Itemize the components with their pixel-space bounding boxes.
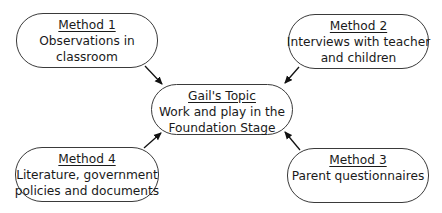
- method-3-node: Method 3 Parent questionnaires: [287, 148, 429, 203]
- method-4-line-2: policies and documents: [15, 183, 159, 199]
- method-1-line-2: classroom: [56, 49, 118, 65]
- method-2-node: Method 2 Interviews with teacher and chi…: [288, 14, 429, 69]
- arrow-method4-to-topic: [144, 133, 161, 148]
- method-4-node: Method 4 Literature, government policies…: [15, 147, 159, 202]
- topic-title: Gail's Topic: [188, 88, 256, 104]
- method-1-line-1: Observations in: [39, 33, 135, 49]
- method-4-line-1: Literature, government: [16, 167, 158, 183]
- arrow-method1-to-topic: [145, 66, 162, 84]
- method-4-title: Method 4: [58, 151, 115, 167]
- method-3-line-1: Parent questionnaires: [292, 168, 425, 184]
- arrow-method2-to-topic: [285, 67, 299, 83]
- topic-line-1: Work and play in the: [159, 104, 285, 120]
- topic-node: Gail's Topic Work and play in the Founda…: [151, 84, 293, 135]
- method-3-title: Method 3: [329, 152, 386, 168]
- method-1-title: Method 1: [58, 17, 115, 33]
- method-2-title: Method 2: [330, 18, 387, 34]
- topic-line-2: Foundation Stage: [168, 120, 275, 136]
- method-2-line-1: Interviews with teacher: [287, 34, 430, 50]
- arrow-method3-to-topic: [285, 132, 300, 150]
- method-2-line-2: and children: [321, 50, 397, 66]
- method-1-node: Method 1 Observations in classroom: [16, 13, 158, 68]
